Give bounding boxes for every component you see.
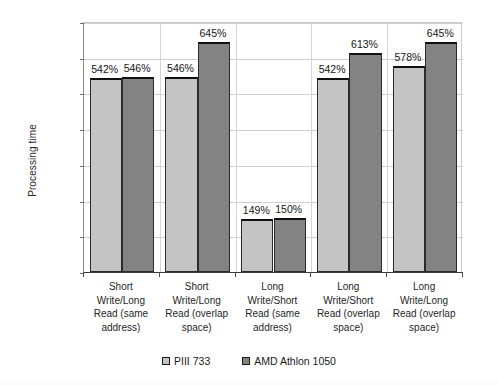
bar-value-label: 645% <box>189 27 237 39</box>
y-tick-mark <box>80 237 84 238</box>
category-separator <box>236 23 237 273</box>
category-label-line: Write/Short <box>304 294 392 308</box>
chart-figure: Processing time 0%100%200%300%400%500%60… <box>0 0 498 385</box>
category-label-line: address) <box>229 321 317 335</box>
category-label-line: Short <box>77 280 165 294</box>
legend-item-amd-athlon-1050[interactable]: AMD Athlon 1050 <box>242 355 336 367</box>
category-label-line: space) <box>380 321 468 335</box>
y-tick-mark <box>80 130 84 131</box>
y-tick-mark <box>80 59 84 60</box>
bar-amd-athlon-1050 <box>349 53 381 272</box>
legend-label: PIII 733 <box>174 355 210 367</box>
bar-piii-733 <box>165 77 197 272</box>
category-label-line: Long <box>380 280 468 294</box>
bar-value-label: 645% <box>416 27 464 39</box>
category-label: LongWrite/ShortRead (overlapspace) <box>304 280 392 334</box>
bar-piii-733 <box>317 78 349 272</box>
gridline <box>84 23 463 24</box>
y-tick-mark <box>80 166 84 167</box>
x-axis-line <box>83 272 463 273</box>
legend-label: AMD Athlon 1050 <box>254 355 336 367</box>
y-tick-mark <box>80 94 84 95</box>
category-label: ShortWrite/LongRead (overlapspace) <box>153 280 241 334</box>
category-label-line: address) <box>77 321 165 335</box>
category-label-line: Read (overlap <box>153 307 241 321</box>
x-tick-mark <box>235 272 236 277</box>
category-label-line: Read (same <box>229 307 317 321</box>
category-label: LongWrite/LongRead (overlapspace) <box>380 280 468 334</box>
legend-swatch-icon <box>242 357 250 365</box>
category-label: LongWrite/ShortRead (sameaddress) <box>229 280 317 334</box>
category-label-line: Long <box>304 280 392 294</box>
category-label: ShortWrite/LongRead (sameaddress) <box>77 280 165 334</box>
category-label-line: Read (same <box>77 307 165 321</box>
category-label-line: Read (overlap <box>304 307 392 321</box>
category-label-line: Write/Short <box>229 294 317 308</box>
bar-amd-athlon-1050 <box>425 42 457 272</box>
category-label-line: Write/Long <box>380 294 468 308</box>
x-tick-mark <box>159 272 160 277</box>
bar-amd-athlon-1050 <box>122 77 154 272</box>
x-tick-mark <box>310 272 311 277</box>
y-axis-title: Processing time <box>27 101 38 221</box>
bar-value-label: 546% <box>156 62 204 74</box>
bar-piii-733 <box>393 66 425 272</box>
bar-amd-athlon-1050 <box>274 218 306 272</box>
category-label-line: Short <box>153 280 241 294</box>
bar-value-label: 546% <box>113 62 161 74</box>
page-edge-artifact <box>0 381 498 385</box>
bar-value-label: 150% <box>265 203 313 215</box>
x-tick-mark <box>386 272 387 277</box>
category-separator <box>160 23 161 273</box>
y-tick-mark <box>80 202 84 203</box>
category-separator <box>311 23 312 273</box>
bar-piii-733 <box>241 219 273 272</box>
x-tick-mark <box>462 272 463 277</box>
category-label-line: Write/Long <box>77 294 165 308</box>
category-label-line: Read (overlap <box>380 307 468 321</box>
bar-value-label: 542% <box>308 63 356 75</box>
bar-amd-athlon-1050 <box>198 42 230 272</box>
legend-swatch-icon <box>162 357 170 365</box>
chart-legend: PIII 733AMD Athlon 1050 <box>0 355 498 367</box>
category-label-line: space) <box>153 321 241 335</box>
category-label-line: Long <box>229 280 317 294</box>
category-label-line: Write/Long <box>153 294 241 308</box>
legend-item-piii-733[interactable]: PIII 733 <box>162 355 210 367</box>
bar-piii-733 <box>90 78 122 272</box>
category-label-line: space) <box>304 321 392 335</box>
y-tick-mark <box>80 23 84 24</box>
x-tick-mark <box>83 272 84 277</box>
bar-value-label: 613% <box>340 38 388 50</box>
bar-value-label: 578% <box>384 51 432 63</box>
